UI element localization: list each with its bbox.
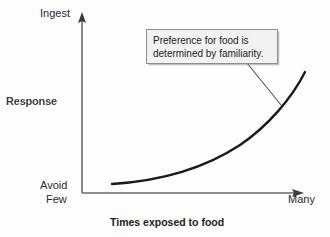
x-axis-tick-many: Many [288, 194, 315, 205]
response-curve [112, 72, 305, 184]
y-axis-tick-avoid: Avoid [40, 180, 67, 191]
annotation-line-2: determined by familiarity. [153, 47, 277, 60]
x-axis-tick-few: Few [46, 194, 67, 205]
chart-figure: Ingest Avoid Few Many Response Times exp… [0, 0, 330, 237]
y-axis-tick-ingest: Ingest [40, 8, 70, 19]
annotation-callout: Preference for food is determined by fam… [146, 29, 278, 64]
annotation-line-1: Preference for food is [153, 34, 277, 47]
y-axis-title: Response [6, 96, 57, 107]
callout-leader-line [247, 63, 281, 105]
x-axis-title: Times exposed to food [110, 217, 224, 228]
